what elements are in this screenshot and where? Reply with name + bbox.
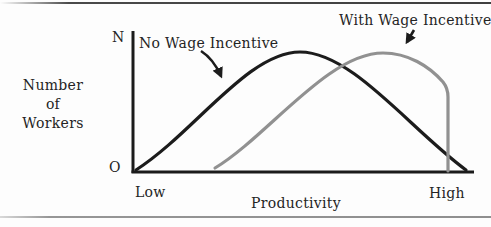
no-wage-annotation-arrow [201, 51, 221, 76]
no-wage-incentive-label: No Wage Incentive [139, 36, 278, 51]
workers-vs-productivity-figure: N O No Wage Incentive With Wage Incentiv… [0, 0, 491, 227]
y-axis-top-label: N [112, 30, 125, 45]
y-axis-title-line-2: of [16, 95, 90, 114]
no-wage-incentive-curve [136, 52, 466, 170]
x-tick-high: High [429, 186, 465, 201]
y-axis-title: Number of Workers [16, 76, 90, 133]
with-wage-annotation-arrow [407, 30, 414, 42]
y-axis-title-line-1: Number [16, 76, 90, 95]
origin-label: O [109, 160, 121, 175]
x-tick-low: Low [135, 185, 166, 200]
with-wage-incentive-label: With Wage Incentive [339, 13, 491, 28]
x-axis-title: Productivity [251, 196, 341, 211]
y-axis-title-line-3: Workers [16, 114, 90, 133]
